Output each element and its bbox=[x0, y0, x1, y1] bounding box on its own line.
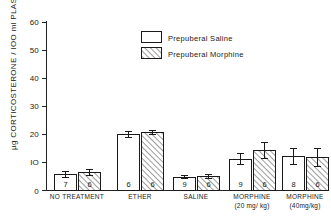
bar-chart: 0IO2030405060 µg CORTICOSTERONE / IOO ml… bbox=[0, 0, 331, 223]
bar-n-label: 6 bbox=[150, 180, 154, 189]
y-tick-label: 60 bbox=[30, 18, 40, 27]
chart-legend: Prepuberal SalinePrepuberal Morphine bbox=[141, 31, 244, 59]
y-tick-label: 20 bbox=[30, 130, 40, 139]
y-axis-tick-labels: 0IO2030405060 bbox=[30, 18, 40, 196]
figure-container: 0IO2030405060 µg CORTICOSTERONE / IOO ml… bbox=[0, 0, 331, 223]
x-axis-group-labels: NO TREATMENTETHERSALINEMORPHINE(20 mg/ k… bbox=[50, 193, 324, 210]
x-axis-group-label: NO TREATMENT bbox=[50, 193, 104, 200]
y-tick-label: IO bbox=[30, 158, 39, 167]
legend-label: Prepuberal Morphine bbox=[168, 50, 244, 59]
bar-n-label: 6 bbox=[206, 180, 210, 189]
y-axis-title: µg CORTICOSTERONE / IOO ml PLASMA bbox=[9, 0, 18, 150]
y-tick-label: 50 bbox=[30, 46, 40, 55]
legend-label: Prepuberal Saline bbox=[168, 34, 233, 43]
y-axis-ticks bbox=[42, 22, 47, 191]
y-tick-label: 0 bbox=[34, 187, 39, 196]
bars-layer bbox=[55, 132, 329, 190]
x-axis-group-label: MORPHINE bbox=[233, 193, 271, 200]
x-axis-group-sublabel: (40mg/kg) bbox=[289, 202, 320, 210]
y-tick-label: 40 bbox=[30, 74, 40, 83]
bar-n-label: 6 bbox=[315, 180, 319, 189]
bar-n-label: 6 bbox=[87, 180, 91, 189]
x-axis-group-label: SALINE bbox=[184, 193, 209, 200]
open-rect-swatch bbox=[141, 31, 161, 42]
y-tick-label: 30 bbox=[30, 102, 40, 111]
x-axis-group-label: MORPHINE bbox=[286, 193, 324, 200]
x-axis-group-label: ETHER bbox=[128, 193, 152, 200]
bar-n-label: 6 bbox=[262, 180, 266, 189]
bar-n-label: 6 bbox=[126, 180, 130, 189]
bar-n-label: 7 bbox=[63, 180, 67, 189]
x-axis-group-sublabel: (20 mg/ kg) bbox=[234, 202, 269, 210]
hatched-rect-swatch bbox=[141, 47, 161, 58]
y-axis: 0IO2030405060 bbox=[30, 18, 47, 196]
bar-n-label: 9 bbox=[238, 180, 242, 189]
bar-n-label: 8 bbox=[291, 180, 295, 189]
bar-n-label: 9 bbox=[182, 180, 186, 189]
